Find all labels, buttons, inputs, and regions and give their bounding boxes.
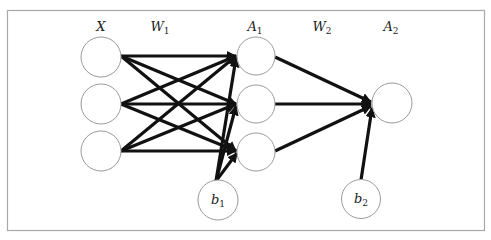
label-input-x: X (95, 19, 106, 34)
bias-b1: b1 (198, 180, 238, 220)
hidden-node-2 (237, 85, 275, 123)
hidden-node-1 (237, 37, 275, 75)
input-node-2 (81, 84, 121, 124)
input-node-1 (81, 37, 121, 77)
output-node (372, 83, 412, 123)
neural-network-diagram: X W1 A1 W2 A2 b1 (0, 0, 491, 240)
hidden-node-3 (237, 133, 275, 171)
input-node-3 (81, 131, 121, 171)
input-layer (81, 37, 121, 171)
bias-b2: b2 (342, 180, 381, 219)
hidden-layer (237, 37, 275, 171)
